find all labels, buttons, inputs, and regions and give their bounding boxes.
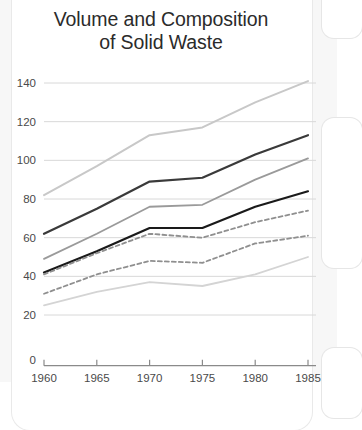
y-tick-label: 0 (30, 354, 36, 366)
x-tick-labels: 196019651970197519801985 (31, 372, 321, 382)
x-tick-label: 1960 (31, 372, 57, 382)
chart-line-series-6-dashed-lower (44, 236, 308, 294)
chart-line-series-4 (44, 191, 308, 272)
chart-line-series-5-dashed-upper (44, 211, 308, 275)
y-tick-label: 40 (23, 270, 36, 282)
x-tick-label: 1970 (137, 372, 163, 382)
chart-line-series-7-bottom (44, 257, 308, 305)
gridlines-group (44, 83, 316, 315)
y-tick-label: 80 (23, 193, 36, 205)
x-tick-label: 1975 (190, 372, 216, 382)
x-tick-label: 1985 (295, 372, 321, 382)
y-tick-labels: 020406080100120140 (17, 77, 36, 366)
y-tick-label: 60 (23, 232, 36, 244)
x-tick-label: 1980 (242, 372, 268, 382)
y-tick-label: 100 (17, 154, 36, 166)
axis-group (44, 360, 316, 366)
x-tick-label: 1965 (84, 372, 110, 382)
series-group (44, 81, 308, 305)
chart-line-series-1-total (44, 81, 308, 195)
y-tick-label: 120 (17, 116, 36, 128)
y-tick-label: 20 (23, 309, 36, 321)
y-tick-label: 140 (17, 77, 36, 89)
